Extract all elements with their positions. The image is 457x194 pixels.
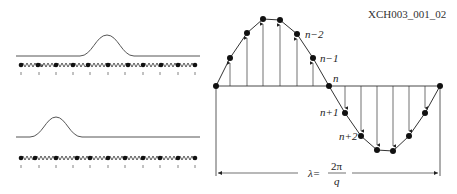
label-n-minus-2: n−2	[305, 28, 324, 40]
fraction-denominator: q	[334, 175, 340, 187]
equilibrium-ticks	[21, 165, 195, 168]
atoms	[213, 16, 443, 154]
pulse-curve	[16, 117, 200, 137]
equilibrium-ticks	[21, 72, 195, 75]
pulse-curve	[16, 35, 200, 56]
phonon-diagram: n−2 n−1 n n+1 n+2 λ= 2π q XCH003_001_02	[0, 0, 457, 194]
top-left-panel	[16, 35, 200, 75]
label-n-plus-2: n+2	[339, 130, 358, 142]
fraction-numerator: 2π	[331, 160, 343, 172]
bottom-left-panel	[16, 117, 200, 168]
label-n-minus-1: n−1	[320, 52, 338, 64]
label-n: n	[333, 72, 339, 84]
displacement-arrows-up	[230, 24, 313, 86]
right-panel: n−2 n−1 n n+1 n+2 λ= 2π q	[213, 16, 443, 187]
figure-id: XCH003_001_02	[368, 8, 446, 20]
lambda-label: λ=	[307, 167, 320, 179]
label-n-plus-1: n+1	[320, 106, 338, 118]
